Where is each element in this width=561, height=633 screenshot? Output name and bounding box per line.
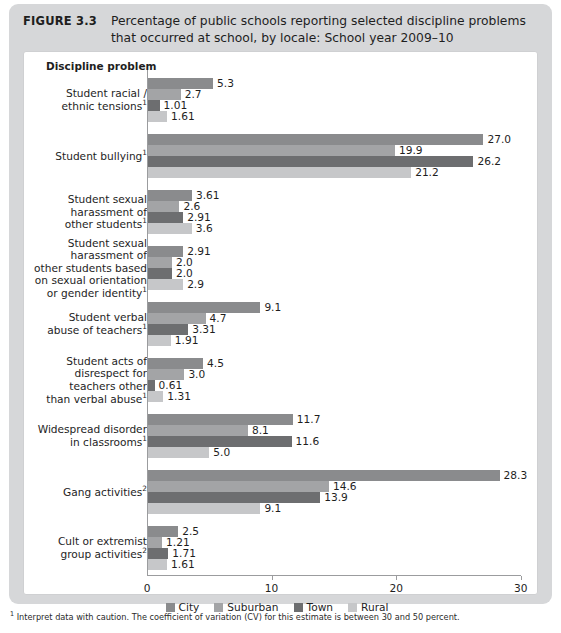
bar-rural-8 (147, 559, 167, 570)
bar-value-label: 1.31 (167, 391, 191, 402)
bar-value-label: 2.7 (185, 89, 202, 100)
bar-suburban-2 (147, 201, 179, 212)
bar-value-label: 3.0 (188, 369, 205, 380)
category-label-6: Widespread disorderin classrooms1 (0, 423, 147, 448)
bar-rural-4 (147, 335, 171, 346)
bar-value-label: 5.3 (217, 78, 234, 89)
legend-swatch-town-icon (294, 603, 303, 612)
x-axis-tick-label: 20 (389, 582, 402, 594)
bar-suburban-8 (147, 537, 162, 548)
bar-suburban-6 (147, 425, 248, 436)
bar-value-label: 3.6 (196, 223, 213, 234)
bar-rural-0 (147, 111, 167, 122)
bar-value-label: 19.9 (399, 145, 423, 156)
legend-swatch-suburban-icon (214, 603, 223, 612)
x-axis-tick-label: 10 (265, 582, 278, 594)
bar-value-label: 9.1 (264, 503, 281, 514)
bar-chart-plot: 5.32.71.011.61Student racial /ethnic ten… (24, 52, 539, 596)
bar-town-8 (147, 548, 168, 559)
bar-suburban-7 (147, 481, 329, 492)
bar-value-label: 8.1 (252, 425, 269, 436)
bar-value-label: 28.3 (504, 470, 528, 481)
chart-panel: Discipline problem 5.32.71.011.61Student… (23, 51, 538, 595)
bar-rural-3 (147, 279, 183, 290)
bar-town-5 (147, 380, 155, 391)
bar-value-label: 27.0 (487, 134, 511, 145)
x-axis-tick (521, 576, 522, 580)
category-label-5: Student acts ofdisrespect forteachers ot… (0, 355, 147, 405)
bar-city-6 (147, 414, 293, 425)
bar-value-label: 21.2 (415, 167, 439, 178)
y-axis-line (147, 70, 148, 575)
bar-value-label: 9.1 (264, 302, 281, 313)
footnote-text: Interpret data with caution. The coeffic… (14, 612, 460, 622)
category-label-3: Student sexualharassment ofother student… (0, 237, 147, 300)
x-axis-line (147, 575, 521, 576)
figure-number: FIGURE 3.3 (23, 13, 97, 28)
category-label-2: Student sexualharassment ofother student… (0, 193, 147, 231)
bar-value-label: 13.9 (324, 492, 348, 503)
x-axis-tick (396, 576, 397, 580)
legend-swatch-city-icon (166, 603, 175, 612)
bar-rural-5 (147, 391, 163, 402)
bar-town-7 (147, 492, 320, 503)
category-label-7: Gang activities2 (0, 486, 147, 499)
bar-value-label: 1.91 (175, 335, 199, 346)
bar-value-label: 4.5 (207, 358, 224, 369)
category-label-0: Student racial /ethnic tensions1 (0, 87, 147, 112)
bar-value-label: 1.61 (171, 111, 195, 122)
figure-container: FIGURE 3.3 Percentage of public schools … (9, 4, 552, 604)
bar-value-label: 1.61 (171, 559, 195, 570)
bar-value-label: 11.6 (296, 436, 320, 447)
x-axis-tick-label: 0 (144, 582, 151, 594)
bar-rural-7 (147, 503, 260, 514)
category-label-1: Student bullying1 (0, 150, 147, 163)
figure-title: Percentage of public schools reporting s… (111, 13, 538, 46)
bar-value-label: 11.7 (297, 414, 321, 425)
bar-rural-1 (147, 167, 411, 178)
bar-rural-2 (147, 223, 192, 234)
bar-town-0 (147, 100, 160, 111)
bar-rural-6 (147, 447, 209, 458)
legend-swatch-rural-icon (348, 603, 357, 612)
bar-town-2 (147, 212, 183, 223)
figure-header: FIGURE 3.3 Percentage of public schools … (9, 4, 552, 46)
bar-suburban-1 (147, 145, 395, 156)
bar-value-label: 26.2 (477, 156, 501, 167)
bar-city-7 (147, 470, 500, 481)
bar-suburban-3 (147, 257, 172, 268)
category-label-4: Student verbalabuse of teachers1 (0, 311, 147, 336)
bar-value-label: 5.0 (213, 447, 230, 458)
bar-city-0 (147, 78, 213, 89)
bar-value-label: 2.9 (187, 279, 204, 290)
category-label-8: Cult or extremistgroup activities2 (0, 535, 147, 560)
footnote: 1 Interpret data with caution. The coeff… (10, 612, 555, 623)
bar-town-3 (147, 268, 172, 279)
x-axis-tick-label: 30 (514, 582, 527, 594)
bar-city-1 (147, 134, 483, 145)
bar-city-4 (147, 302, 260, 313)
x-axis-tick (272, 576, 273, 580)
